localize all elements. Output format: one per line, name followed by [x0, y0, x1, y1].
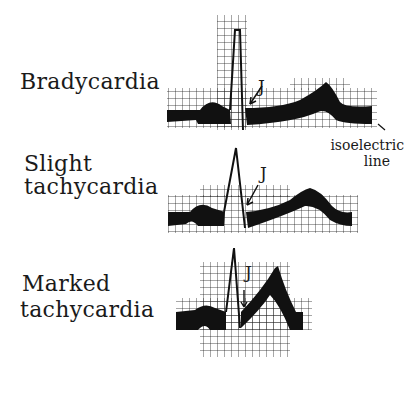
ecg-trace-bradycardia — [167, 30, 385, 130]
ecg-drawing — [0, 0, 408, 393]
